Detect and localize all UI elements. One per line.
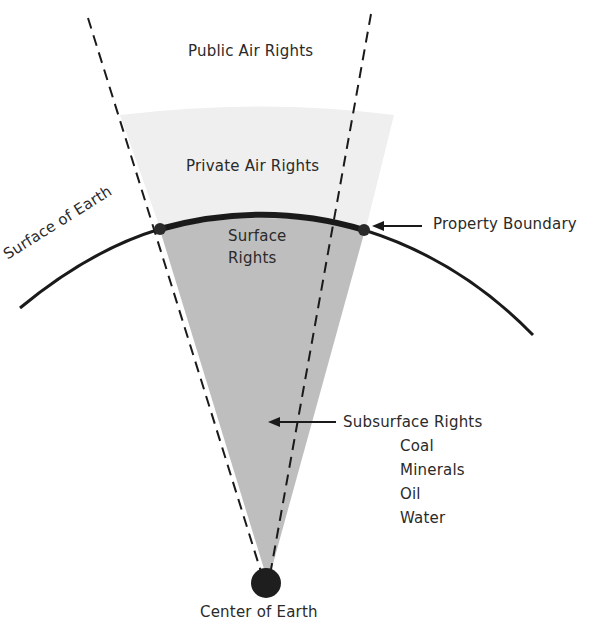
subsurface-item: Minerals xyxy=(400,461,465,479)
boundary-point-right xyxy=(358,224,370,236)
subsurface-item: Oil xyxy=(400,485,421,503)
subsurface-wedge xyxy=(160,218,365,582)
boundary-point-left xyxy=(154,223,166,235)
subsurface-item: Coal xyxy=(400,437,434,455)
surface-rights-label-1: Surface xyxy=(228,227,287,245)
arrowhead-icon xyxy=(372,221,384,231)
public-air-rights-label: Public Air Rights xyxy=(188,42,313,60)
subsurface-item: Water xyxy=(400,509,445,527)
land-rights-diagram xyxy=(0,0,599,624)
property-boundary-label: Property Boundary xyxy=(433,215,577,233)
private-air-rights-label: Private Air Rights xyxy=(186,157,319,175)
surface-rights-label-2: Rights xyxy=(228,249,277,267)
subsurface-rights-label: Subsurface Rights xyxy=(343,413,482,431)
center-of-earth-label: Center of Earth xyxy=(200,603,318,621)
center-of-earth-dot xyxy=(251,568,281,598)
surface-of-earth-curve-right xyxy=(364,230,533,335)
